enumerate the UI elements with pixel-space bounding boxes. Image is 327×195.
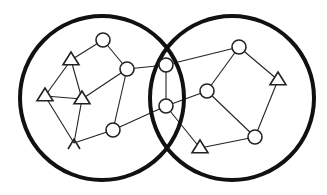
edge-t5-c8 bbox=[255, 80, 278, 137]
node-triangle-icon bbox=[74, 91, 90, 104]
node-triangle-icon bbox=[63, 52, 79, 65]
venn-network-diagram bbox=[0, 0, 327, 195]
edge-t3-t4 bbox=[74, 99, 82, 143]
nodes-layer bbox=[37, 33, 286, 153]
node-circle-icon bbox=[159, 99, 173, 113]
edge-c3-c2 bbox=[113, 69, 127, 130]
node-circle-icon bbox=[200, 84, 214, 98]
node-circle-icon bbox=[106, 123, 120, 137]
node-triangle-icon bbox=[270, 72, 286, 85]
node-circle-icon bbox=[96, 33, 110, 47]
node-arrowhead-icon bbox=[68, 139, 80, 149]
edge-t2-t4 bbox=[45, 96, 74, 143]
right-set-circle bbox=[150, 16, 314, 180]
node-triangle-icon bbox=[37, 88, 53, 101]
edge-t3-c2 bbox=[82, 69, 127, 99]
edge-c3-c5 bbox=[113, 106, 166, 130]
node-circle-icon bbox=[120, 62, 134, 76]
edge-c7-c8 bbox=[207, 91, 255, 137]
node-circle-icon bbox=[159, 58, 173, 72]
edge-c8-t6 bbox=[200, 137, 255, 148]
node-circle-icon bbox=[248, 130, 262, 144]
node-circle-icon bbox=[232, 40, 246, 54]
